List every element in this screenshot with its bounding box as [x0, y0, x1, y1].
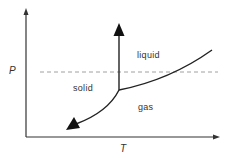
y-axis-label: P — [9, 65, 16, 76]
region-label-gas: gas — [138, 102, 153, 112]
up-arrow-icon — [114, 23, 125, 36]
x-axis-arrow-icon — [213, 135, 220, 140]
phase-diagram — [0, 0, 231, 158]
region-label-liquid: liquid — [137, 50, 160, 60]
x-axis-label: T — [120, 143, 126, 154]
y-axis-arrow-icon — [24, 8, 29, 15]
solid-gas-boundary — [76, 90, 119, 124]
region-label-solid: solid — [73, 83, 93, 93]
liquid-gas-boundary — [119, 50, 212, 90]
